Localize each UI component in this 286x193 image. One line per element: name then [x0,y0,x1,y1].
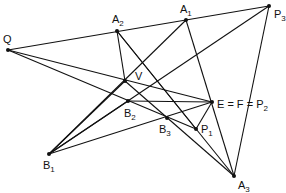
segment-B1-V [49,81,125,154]
label-B1: B1 [43,159,55,174]
point-A3 [232,174,236,178]
segment-A2-V [117,31,125,81]
label-subscript-E: 2 [263,104,268,113]
label-subscript-B1: 1 [50,165,55,174]
label-subscript-A3: 3 [245,185,250,193]
segments-layer [8,6,269,176]
point-E [210,100,214,104]
label-P1: P1 [201,123,213,138]
point-A1 [184,18,188,22]
points-layer [6,4,271,178]
point-V [123,79,127,83]
label-E: E = F = P2 [217,98,268,113]
label-V: V [135,70,143,82]
point-P3 [267,4,271,8]
label-Q: Q [3,33,12,45]
label-A3: A3 [238,179,250,193]
point-Q [6,48,10,52]
label-A1: A1 [180,3,192,18]
segment-B2-E [128,101,212,102]
label-subscript-A1: 1 [187,9,192,18]
point-B2 [126,99,130,103]
label-subscript-B2: 2 [131,113,136,122]
segment-B1-B2 [49,101,128,154]
label-A2: A2 [112,13,124,28]
label-subscript-B3: 3 [166,129,171,138]
segment-P3-A3 [234,6,269,176]
label-subscript-A2: 2 [119,19,124,28]
label-subscript-P1: 1 [208,129,213,138]
segment-Q-P3 [8,6,269,50]
geometry-diagram: QA2A1P3VB2B3E = F = P2P1B1A3 [0,0,286,193]
segment-V-A3 [125,81,234,176]
label-subscript-P3: 3 [281,14,286,23]
label-B3: B3 [159,123,171,138]
point-A2 [115,29,119,33]
point-B3 [165,116,169,120]
label-B2: B2 [124,107,136,122]
point-P1 [194,127,198,131]
point-B1 [47,152,51,156]
label-P3: P3 [274,8,286,23]
